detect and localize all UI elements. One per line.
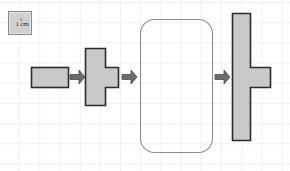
unit-area-legend-value: 1 cm	[11, 20, 33, 28]
shape-tee-small	[86, 49, 119, 106]
figure-canvas: 1 cm2	[0, 0, 290, 171]
figure-artwork	[0, 0, 290, 171]
shape-rectangle-2x1	[32, 68, 69, 88]
arrow-right-icon-3	[215, 70, 230, 84]
unit-area-legend: 1 cm2	[8, 11, 32, 35]
shape-tee-tall	[233, 14, 271, 141]
arrow-right-icon-1	[70, 70, 85, 84]
shape-rounded-rectangle-outline	[141, 20, 213, 153]
unit-area-legend-text: 1 cm2	[10, 16, 32, 26]
arrow-right-icon-2	[122, 70, 137, 84]
